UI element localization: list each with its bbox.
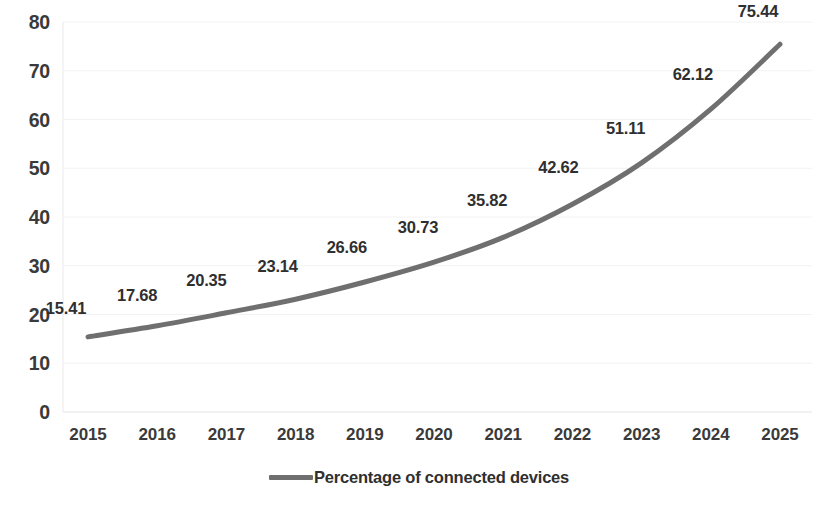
- data-label: 23.14: [243, 257, 313, 276]
- x-axis-tick-label: 2023: [602, 425, 682, 445]
- x-axis-tick-label: 2022: [532, 425, 612, 445]
- legend-line-swatch: [269, 475, 313, 480]
- chart-legend: Percentage of connected devices: [0, 463, 838, 491]
- legend-label-percentage-of-connected-devices: Percentage of connected devices: [314, 468, 569, 487]
- data-label: 35.82: [452, 191, 522, 210]
- y-axis-tick-label: 40: [4, 206, 50, 229]
- x-axis-tick-label: 2025: [740, 425, 820, 445]
- y-axis-tick-label: 60: [4, 109, 50, 132]
- y-axis-tick-label: 10: [4, 352, 50, 375]
- y-axis-tick-label: 50: [4, 157, 50, 180]
- x-axis-tick-label: 2016: [117, 425, 197, 445]
- x-axis-tick-label: 2015: [48, 425, 128, 445]
- x-axis-tick-label: 2020: [394, 425, 474, 445]
- y-axis-tick-label: 0: [4, 401, 50, 424]
- line-chart: 01020304050607080 2015201620172018201920…: [0, 0, 838, 506]
- data-label: 51.11: [591, 119, 661, 138]
- data-label: 26.66: [312, 238, 382, 257]
- x-axis-tick-label: 2024: [671, 425, 751, 445]
- data-label: 15.41: [31, 299, 101, 318]
- y-axis-tick-label: 30: [4, 255, 50, 278]
- x-axis-tick-label: 2017: [186, 425, 266, 445]
- x-axis-tick-label: 2019: [325, 425, 405, 445]
- y-axis-tick-label: 70: [4, 60, 50, 83]
- data-label: 42.62: [523, 158, 593, 177]
- data-label: 20.35: [171, 271, 241, 290]
- data-label: 30.73: [383, 218, 453, 237]
- series-line-percentage-of-connected-devices: [88, 44, 780, 337]
- data-label: 17.68: [102, 286, 172, 305]
- data-label: 75.44: [723, 2, 793, 21]
- x-axis-tick-label: 2021: [463, 425, 543, 445]
- data-label: 62.12: [658, 65, 728, 84]
- x-axis-tick-label: 2018: [256, 425, 336, 445]
- plot-area: 01020304050607080 2015201620172018201920…: [0, 0, 838, 506]
- y-axis-tick-label: 80: [4, 11, 50, 34]
